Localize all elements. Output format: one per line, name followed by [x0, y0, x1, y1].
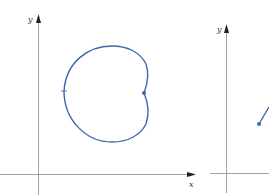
left-x-axis-arrow-icon [187, 172, 196, 177]
right-panel: y [210, 24, 269, 193]
right-y-axis-label: y [216, 25, 222, 34]
right-start-point-dot [257, 122, 261, 126]
left-y-axis-arrow-icon [36, 14, 41, 23]
left-y-axis-label: y [27, 15, 33, 24]
start-point-dot [142, 91, 146, 95]
cardioid-curve [64, 46, 148, 142]
left-x-axis-label: x [189, 180, 194, 189]
line-segment-curve [259, 107, 269, 124]
figure: y x y [0, 0, 269, 195]
left-panel: y x [0, 14, 196, 195]
right-y-axis-arrow-icon [224, 24, 229, 33]
